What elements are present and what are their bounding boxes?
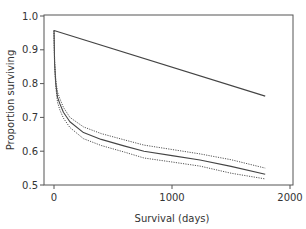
y-tick-label: 0.5: [22, 180, 38, 191]
y-tick-label: 0.7: [22, 112, 38, 123]
series-upper-confidence-limit: [54, 31, 265, 169]
y-tick-label: 1.0: [22, 11, 38, 22]
series-lower-confidence-limit: [54, 31, 265, 179]
plot-frame: [44, 15, 293, 185]
y-tick-label: 0.8: [22, 78, 38, 89]
series-layer: [54, 31, 265, 179]
x-tick-label: 1000: [159, 192, 184, 203]
x-axis-label: Survival (days): [135, 213, 210, 224]
survival-chart: 010002000 0.50.60.70.80.91.0 Survival (d…: [0, 0, 306, 229]
y-axis-label: Proportion surviving: [5, 50, 16, 151]
x-tick-label: 2000: [277, 192, 302, 203]
series-survival-estimate: [54, 31, 265, 175]
y-tick-label: 0.9: [22, 44, 38, 55]
plot-border: [44, 15, 293, 185]
series-reference-upper-line: [54, 31, 265, 97]
y-axis: 0.50.60.70.80.91.0: [22, 11, 44, 191]
x-axis: 010002000: [51, 185, 303, 203]
y-tick-label: 0.6: [22, 146, 38, 157]
x-tick-label: 0: [51, 192, 57, 203]
